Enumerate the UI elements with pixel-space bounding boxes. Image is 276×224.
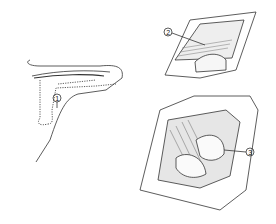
medical-illustration: 1 2 3 — [0, 0, 276, 224]
incision-panel — [164, 12, 256, 78]
callout-3: 3 — [248, 149, 252, 156]
callout-1: 1 — [55, 95, 59, 102]
thumb-outline-panel — [28, 60, 123, 162]
joint-exposure-panel — [140, 96, 258, 210]
callout-2: 2 — [166, 29, 170, 36]
